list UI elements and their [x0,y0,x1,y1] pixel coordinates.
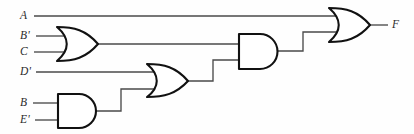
and-gate-be[interactable] [58,94,96,128]
or-gate-d-and1[interactable] [147,64,188,97]
input-label-a: A [20,10,27,22]
wire-and2-to-or3 [277,32,336,51]
logic-circuit-diagram: A B' C D' B E' F [0,0,414,134]
and-gate-or1-or2[interactable] [239,34,278,69]
input-label-c: C [20,46,28,58]
input-label-b: B [20,97,27,109]
or-gate-output[interactable] [329,8,370,42]
output-label-f: F [392,19,399,31]
or-gate-bc[interactable] [57,27,98,61]
circuit-svg-canvas [0,0,414,134]
input-label-e-prime: E' [20,114,30,126]
input-label-d-prime: D' [20,66,31,78]
input-label-b-prime: B' [20,30,30,42]
wire-and1-to-or2 [96,89,154,111]
wire-or2-to-and2 [188,60,246,81]
